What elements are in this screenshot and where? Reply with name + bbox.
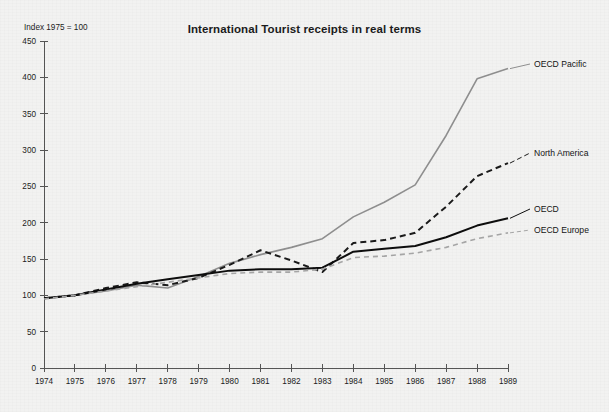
x-tick-label: 1985 — [375, 377, 394, 386]
y-tick-label: 300 — [22, 146, 36, 155]
leader-line-oecd-europe — [510, 230, 530, 233]
chart-page: Index 1975 = 100 International Tourist r… — [0, 0, 609, 412]
y-tick-label: 450 — [22, 37, 36, 46]
x-tick-label: 1975 — [66, 377, 85, 386]
series-label-oecd: OECD — [534, 204, 559, 214]
leader-line-north-america — [510, 153, 530, 163]
series-line-oecd-pacific — [44, 69, 508, 299]
y-tick-label: 0 — [31, 364, 36, 373]
x-tick-label: 1983 — [313, 377, 332, 386]
y-tick-label: 150 — [22, 255, 36, 264]
line-chart-plot: 050100150200250300350400450 197419751976… — [0, 0, 609, 412]
x-tick-label: 1989 — [499, 377, 518, 386]
x-tick-label: 1986 — [406, 377, 425, 386]
y-tick-label: 250 — [22, 182, 36, 191]
y-tick-label: 200 — [22, 219, 36, 228]
x-tick-label: 1974 — [35, 377, 54, 386]
x-tick-label: 1977 — [128, 377, 147, 386]
y-tick-label: 100 — [22, 291, 36, 300]
y-tick-label: 400 — [22, 73, 36, 82]
series-labels: OECD PacificNorth AmericaOECDOECD Europe — [510, 59, 589, 235]
x-tick-label: 1988 — [468, 377, 487, 386]
x-tick-label: 1987 — [437, 377, 456, 386]
y-tick-label: 350 — [22, 110, 36, 119]
x-tick-label: 1978 — [159, 377, 178, 386]
series-label-oecd-europe: OECD Europe — [534, 225, 589, 235]
series-label-oecd-pacific: OECD Pacific — [534, 59, 587, 69]
leader-line-oecd — [510, 209, 530, 218]
series-label-north-america: North America — [534, 148, 589, 158]
series-lines — [44, 69, 508, 299]
series-line-north-america — [44, 163, 508, 298]
x-tick-label: 1976 — [97, 377, 116, 386]
x-tick-label: 1982 — [282, 377, 301, 386]
x-tick-label: 1980 — [220, 377, 239, 386]
x-tick-label: 1981 — [251, 377, 270, 386]
x-tick-label: 1984 — [344, 377, 363, 386]
y-tick-label: 50 — [27, 328, 37, 337]
x-axis: 1974197519761977197819791980198119821983… — [35, 364, 518, 386]
x-tick-label: 1979 — [190, 377, 209, 386]
leader-line-oecd-pacific — [510, 64, 530, 69]
y-axis: 050100150200250300350400450 — [22, 37, 48, 373]
